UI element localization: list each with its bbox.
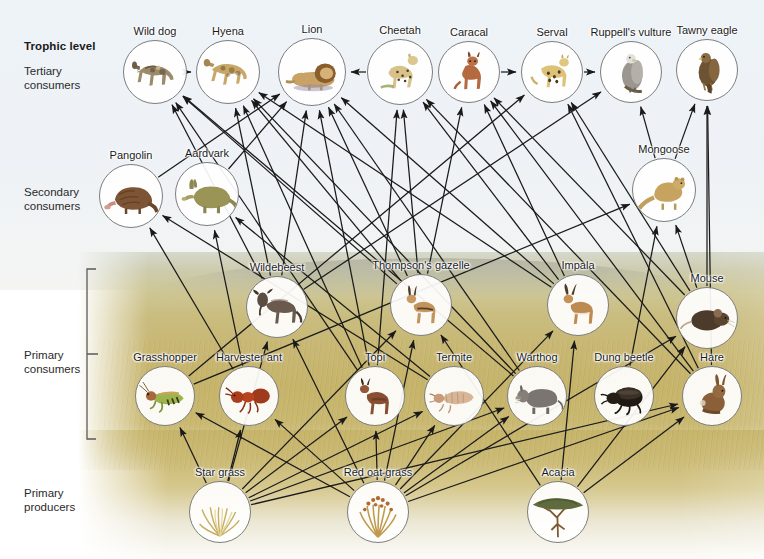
organism-label: Thompson's gazelle: [372, 259, 470, 271]
feeding-arrow-dung-beetle-to-mongoose: [630, 226, 657, 365]
organism-circle: [521, 41, 583, 103]
organism-label: Cheetah: [379, 24, 421, 36]
feeding-arrow-red-oat-grass-to-harvester-ant: [275, 419, 354, 490]
organism-pangolin[interactable]: Pangolin: [99, 164, 163, 228]
organism-star-grass[interactable]: Star grass: [189, 481, 251, 543]
organism-aardvark[interactable]: Aardvark: [175, 162, 239, 226]
organism-label: Mouse: [690, 272, 723, 284]
organism-circle: [345, 366, 405, 426]
organism-mouse[interactable]: Mouse: [676, 287, 738, 349]
organism-label: Warthog: [516, 351, 557, 363]
organism-thompsons-gazelle[interactable]: Thompson's gazelle: [390, 274, 452, 336]
feeding-arrow-wildebeest-to-lion: [282, 111, 307, 276]
organism-circle: [424, 366, 484, 426]
organism-circle: [676, 39, 738, 101]
organism-hare[interactable]: Hare: [682, 366, 742, 426]
organism-grasshopper[interactable]: Grasshopper: [135, 366, 195, 426]
organism-circle: [600, 41, 662, 103]
organism-label: Wildebeest: [250, 261, 304, 273]
feeding-arrow-impala-to-lion: [341, 98, 554, 284]
feeding-arrow-thompsons-gazelle-to-hyena: [252, 101, 401, 281]
organism-lion[interactable]: Lion: [278, 38, 346, 106]
organism-hyena[interactable]: Hyena: [196, 40, 260, 104]
feeding-arrow-wildebeest-to-hyena: [236, 108, 271, 276]
organism-topi[interactable]: Topi: [345, 366, 405, 426]
organism-label: Acacia: [541, 466, 574, 478]
organism-circle: [632, 158, 696, 222]
organism-circle: [547, 274, 609, 336]
feeding-arrow-acacia-to-hare: [584, 417, 684, 493]
organism-circle: [99, 164, 163, 228]
organism-label: Serval: [536, 26, 567, 38]
feeding-arrow-thompsons-gazelle-to-caracal: [428, 107, 462, 273]
organism-label: Tawny eagle: [676, 24, 737, 36]
organism-circle: [278, 38, 346, 106]
feeding-arrow-star-grass-to-topi: [246, 417, 347, 493]
organism-label: Mongoose: [638, 143, 689, 155]
organism-ruppells-vulture[interactable]: Ruppell's vulture: [600, 41, 662, 103]
feeding-arrow-harvester-ant-to-pangolin: [150, 228, 233, 369]
organism-caracal[interactable]: Caracal: [438, 41, 500, 103]
organism-circle: [189, 481, 251, 543]
organism-label: Termite: [436, 351, 472, 363]
organism-acacia[interactable]: Acacia: [527, 481, 589, 543]
organism-warthog[interactable]: Warthog: [507, 366, 567, 426]
feeding-arrow-impala-to-cheetah: [423, 102, 558, 279]
organism-circle: [219, 366, 279, 426]
organism-dung-beetle[interactable]: Dung beetle: [594, 366, 654, 426]
organism-circle: [246, 276, 308, 338]
organism-circle: [196, 40, 260, 104]
organism-wildebeest[interactable]: Wildebeest: [246, 276, 308, 338]
organism-label: Topi: [365, 351, 385, 363]
organism-cheetah[interactable]: Cheetah: [367, 39, 433, 105]
organism-termite[interactable]: Termite: [424, 366, 484, 426]
organism-tawny-eagle[interactable]: Tawny eagle: [676, 39, 738, 101]
organism-label: Harvester ant: [216, 351, 282, 363]
organism-circle: [175, 162, 239, 226]
organism-label: Dung beetle: [594, 351, 653, 363]
organism-red-oat-grass[interactable]: Red oat grass: [347, 481, 409, 543]
organism-wild-dog[interactable]: Wild dog: [123, 40, 187, 104]
organism-label: Hyena: [212, 25, 244, 37]
organism-label: Lion: [302, 23, 323, 35]
organism-label: Star grass: [195, 466, 245, 478]
organism-circle: [527, 481, 589, 543]
organism-circle: [135, 366, 195, 426]
organism-mongoose[interactable]: Mongoose: [632, 158, 696, 222]
organism-circle: [347, 481, 409, 543]
organism-circle: [390, 274, 452, 336]
organism-circle: [507, 366, 567, 426]
organism-circle: [676, 287, 738, 349]
organism-label: Impala: [561, 259, 594, 271]
organism-label: Pangolin: [110, 149, 153, 161]
organism-serval[interactable]: Serval: [521, 41, 583, 103]
organism-label: Wild dog: [134, 25, 177, 37]
organism-label: Ruppell's vulture: [591, 26, 672, 38]
organism-circle: [367, 39, 433, 105]
organism-label: Aardvark: [185, 147, 229, 159]
organism-circle: [594, 366, 654, 426]
organism-circle: [682, 366, 742, 426]
organism-label: Grasshopper: [133, 351, 197, 363]
organism-harvester-ant[interactable]: Harvester ant: [219, 366, 279, 426]
organism-label: Red oat grass: [344, 466, 412, 478]
feeding-arrow-thompsons-gazelle-to-cheetah: [403, 110, 418, 273]
organism-label: Caracal: [450, 26, 488, 38]
food-web-figure: Trophic level Tertiary consumers Seconda…: [0, 0, 764, 559]
organism-label: Hare: [700, 351, 724, 363]
organism-impala[interactable]: Impala: [547, 274, 609, 336]
feeding-arrow-red-oat-grass-to-warthog: [404, 417, 509, 494]
organism-circle: [123, 40, 187, 104]
organism-circle: [438, 41, 500, 103]
